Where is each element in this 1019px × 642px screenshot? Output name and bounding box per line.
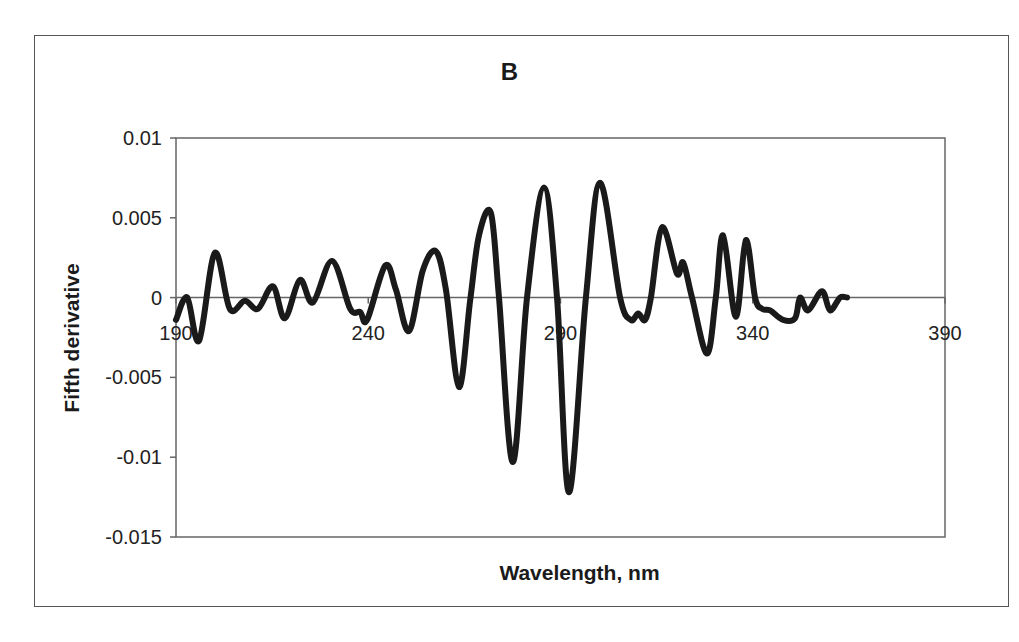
y-tick-label: 0.005 — [112, 207, 162, 229]
y-tick-label: 0 — [151, 287, 162, 309]
x-tick-label: 340 — [736, 322, 769, 344]
x-tick-label: 390 — [928, 322, 961, 344]
y-tick-label: -0.005 — [105, 366, 162, 388]
y-tick-label: 0.01 — [123, 127, 162, 149]
plot-area: 0.010.0050-0.005-0.01-0.015 190240290340… — [0, 0, 1019, 642]
x-tick-label: 190 — [159, 322, 192, 344]
x-tick-label: 240 — [352, 322, 385, 344]
y-tick-label: -0.01 — [116, 446, 162, 468]
y-tick-label: -0.015 — [105, 526, 162, 548]
